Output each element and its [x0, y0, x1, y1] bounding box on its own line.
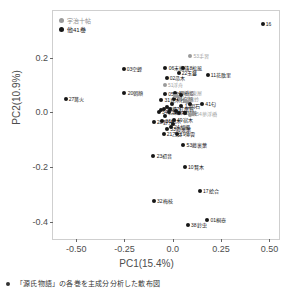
- caption-bullet-icon: [6, 282, 10, 286]
- data-point-label: 02帚木: [170, 76, 186, 81]
- data-point[interactable]: [188, 113, 192, 117]
- legend-key-uji-icon: [59, 18, 64, 23]
- legend-item-uji[interactable]: 宇治十帖: [59, 16, 91, 25]
- y-tick-label: 0.2: [35, 53, 48, 63]
- data-point[interactable]: [122, 91, 126, 95]
- data-point-label: 27篝火: [69, 97, 85, 102]
- data-point-label: 53手習: [193, 54, 209, 59]
- data-point-label: 51浮舟: [168, 83, 184, 88]
- data-point[interactable]: [159, 108, 163, 112]
- data-point[interactable]: [188, 54, 192, 58]
- data-point[interactable]: [175, 132, 179, 136]
- data-point-label: 10賢木: [188, 164, 204, 169]
- legend-label-other: 他41巻: [67, 27, 86, 33]
- data-point-label: 11花散里: [211, 72, 231, 77]
- data-point[interactable]: [188, 102, 192, 106]
- x-tick: [269, 239, 270, 242]
- figure-caption: 「源氏物語」の各巻を主成分分析した散布図: [0, 278, 293, 290]
- data-point-label: 53藤裏葉: [187, 142, 208, 147]
- x-tick-label: -0.25: [114, 244, 135, 254]
- data-point[interactable]: [174, 109, 178, 113]
- y-tick-label: -0.2: [32, 162, 48, 172]
- data-point-label: 01桐壺: [210, 217, 226, 222]
- data-point-label: 38鈴虫: [191, 223, 207, 228]
- y-tick-label: 0.0: [35, 107, 48, 117]
- x-tick: [76, 239, 77, 242]
- y-axis-title: PC2(10.9%): [11, 38, 22, 158]
- data-point[interactable]: [183, 165, 187, 169]
- legend-key-other-icon: [59, 27, 64, 32]
- data-point[interactable]: [165, 105, 169, 109]
- legend-label-uji: 宇治十帖: [67, 18, 91, 24]
- pca-scatter-figure: PC2(10.9%) PC1(15.4%) 宇治十帖 他41巻 0.20.0-0…: [0, 0, 293, 290]
- y-tick: [50, 167, 53, 168]
- data-point-label: 19薄雲: [180, 131, 196, 136]
- data-point[interactable]: [183, 111, 187, 115]
- data-point[interactable]: [171, 122, 175, 126]
- x-tick-label: 0.50: [261, 244, 279, 254]
- data-point-label: 03空蝉: [127, 66, 143, 71]
- legend-item-other[interactable]: 他41巻: [59, 25, 91, 34]
- data-point[interactable]: [64, 97, 68, 101]
- data-point[interactable]: [165, 76, 169, 80]
- x-tick: [173, 239, 174, 242]
- data-point[interactable]: [261, 22, 265, 26]
- y-tick: [50, 58, 53, 59]
- data-point[interactable]: [162, 132, 166, 136]
- caption-text: 「源氏物語」の各巻を主成分分析した散布図: [16, 280, 160, 287]
- y-tick: [50, 222, 53, 223]
- data-point[interactable]: [170, 102, 174, 106]
- data-point[interactable]: [167, 110, 171, 114]
- data-point[interactable]: [151, 154, 155, 158]
- data-point-label: 54夢浮橋: [196, 111, 217, 116]
- data-point[interactable]: [160, 119, 164, 123]
- x-tick-label: 0.0: [167, 244, 180, 254]
- y-tick-label: -0.4: [32, 217, 48, 227]
- data-point[interactable]: [200, 102, 204, 106]
- x-axis-title: PC1(15.4%): [0, 258, 293, 269]
- data-point[interactable]: [152, 120, 156, 124]
- data-point[interactable]: [181, 143, 185, 147]
- legend: 宇治十帖 他41巻: [59, 16, 91, 34]
- data-point-label: 32梅枝: [157, 199, 173, 204]
- data-point-label: 20朝顔: [128, 91, 144, 96]
- plot-panel: 宇治十帖 他41巻 0.20.0-0.2-0.4 -0.50-0.250.00.…: [52, 10, 280, 240]
- data-point[interactable]: [122, 67, 126, 71]
- x-tick: [221, 239, 222, 242]
- data-point[interactable]: [163, 66, 167, 70]
- data-point-label: 41匂: [205, 102, 216, 107]
- data-point[interactable]: [198, 189, 202, 193]
- data-point[interactable]: [186, 223, 190, 227]
- y-tick: [50, 112, 53, 113]
- data-point[interactable]: [152, 199, 156, 203]
- data-point-label: 23初音: [157, 154, 173, 159]
- x-tick-label: -0.50: [66, 244, 87, 254]
- data-point-label: 49宿木: [177, 117, 193, 122]
- data-point[interactable]: [163, 83, 167, 87]
- data-point-label: 16: [266, 21, 272, 26]
- x-tick: [124, 239, 125, 242]
- data-point[interactable]: [206, 73, 210, 77]
- data-point[interactable]: [163, 114, 167, 118]
- x-tick-label: 0.25: [212, 244, 230, 254]
- data-point-label: 17絵合: [203, 189, 219, 194]
- data-point[interactable]: [159, 98, 163, 102]
- data-point[interactable]: [163, 92, 167, 96]
- data-point[interactable]: [178, 97, 182, 101]
- data-point[interactable]: [179, 93, 183, 97]
